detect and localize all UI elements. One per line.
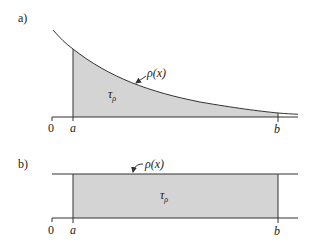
panel-a-curve-label: ρ(x) bbox=[146, 66, 166, 80]
panel-a-b-label: b bbox=[274, 122, 280, 136]
panel-b-shaded-area bbox=[73, 174, 278, 218]
panel-b: b) 0 a b τρ ρ(x) bbox=[18, 157, 298, 238]
panel-a: a) 0 a b τρ ρ(x) bbox=[18, 11, 298, 136]
panel-b-a-label: a bbox=[70, 223, 76, 237]
panel-b-arrow bbox=[133, 164, 143, 172]
panel-a-origin-label: 0 bbox=[48, 121, 54, 135]
panel-a-label: a) bbox=[18, 11, 27, 25]
panel-b-origin-label: 0 bbox=[48, 223, 54, 237]
panel-a-arrow bbox=[136, 76, 146, 83]
panel-b-b-label: b bbox=[274, 224, 280, 238]
panel-b-curve-label: ρ(x) bbox=[144, 157, 164, 171]
panel-a-a-label: a bbox=[70, 121, 76, 135]
panel-a-shaded-area bbox=[73, 49, 278, 117]
diagram-canvas: a) 0 a b τρ ρ(x) b) 0 a b bbox=[0, 0, 310, 246]
panel-b-label: b) bbox=[18, 157, 28, 171]
